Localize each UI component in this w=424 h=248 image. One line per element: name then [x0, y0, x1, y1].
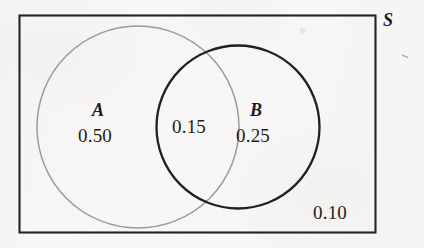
outside-region-value: 0.10 [313, 203, 347, 222]
sample-space-label: S [383, 11, 393, 29]
venn-diagram-graphics [0, 0, 424, 248]
set-a-value: 0.50 [78, 126, 112, 145]
intersection-value: 0.15 [172, 117, 206, 136]
set-b-label: B [250, 101, 262, 119]
venn-diagram-figure: A 0.50 0.15 B 0.25 0.10 S [0, 0, 424, 248]
set-a-circle [37, 26, 239, 228]
set-a-label: A [92, 101, 104, 119]
set-b-value: 0.25 [236, 126, 270, 145]
